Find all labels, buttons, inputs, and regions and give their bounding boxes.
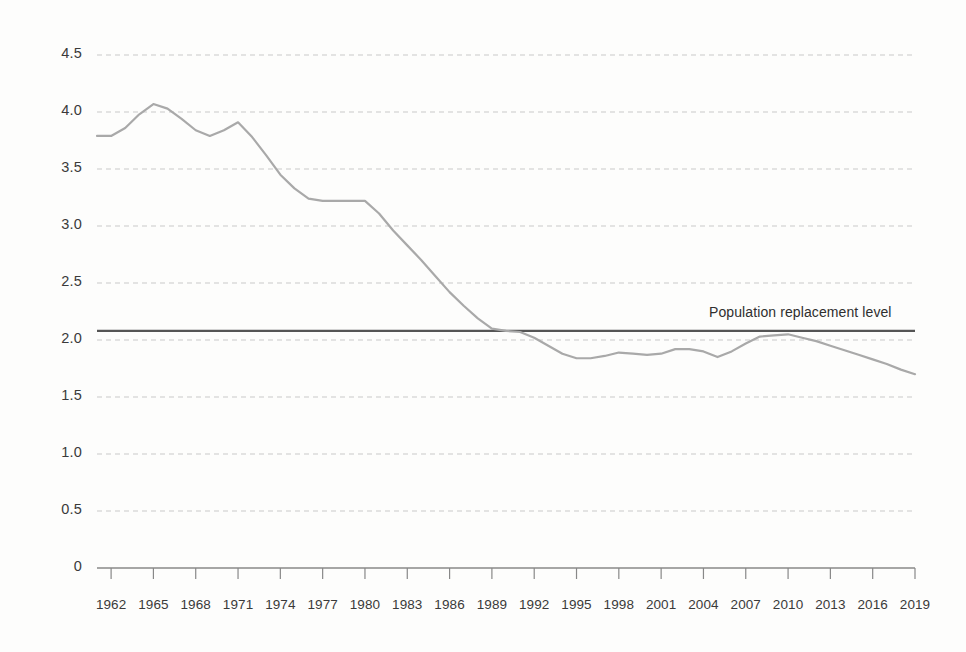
x-axis-tick-label: 2019 <box>885 597 945 612</box>
fertility-rate-line-chart: 4.54.03.53.02.52.01.51.00.50 19621965196… <box>0 0 966 652</box>
y-axis-tick-label: 0 <box>20 558 82 574</box>
y-axis-tick-label: 0.5 <box>20 501 82 517</box>
y-axis-tick-label: 1.0 <box>20 444 82 460</box>
y-axis-tick-label: 1.5 <box>20 387 82 403</box>
data-line-fertility-rate <box>97 104 915 374</box>
y-axis-tick-label: 2.5 <box>20 273 82 289</box>
chart-plot-area <box>0 0 966 652</box>
y-axis-tick-label: 3.0 <box>20 216 82 232</box>
y-axis-tick-label: 4.5 <box>20 45 82 61</box>
y-axis-tick-label: 3.5 <box>20 159 82 175</box>
population-replacement-level-label: Population replacement level <box>709 304 892 320</box>
y-axis-tick-label: 2.0 <box>20 330 82 346</box>
y-axis-tick-label: 4.0 <box>20 102 82 118</box>
